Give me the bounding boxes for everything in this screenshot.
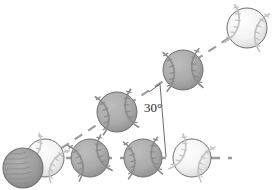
ball-horizontal-1	[67, 134, 112, 181]
ball-launch-dark	[1, 148, 43, 188]
launch-path-dashed-line	[48, 30, 241, 157]
ball-horizontal-3	[168, 134, 215, 183]
angle-ray-vertical	[160, 84, 166, 157]
ball-path-1	[95, 89, 139, 136]
ball-path-2	[163, 48, 204, 91]
ball-path-3-top	[224, 4, 270, 52]
ball-horizontal-2	[123, 137, 163, 180]
projectile-diagram: 30°	[0, 0, 277, 190]
angle-ray-along-path	[149, 84, 160, 92]
diagram-canvas	[0, 0, 277, 190]
angle-label-30-degrees: 30°	[144, 100, 162, 116]
